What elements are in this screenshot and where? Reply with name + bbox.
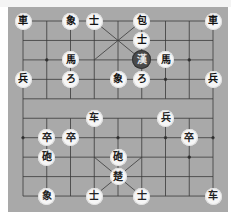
piece-r-chariot-2[interactable]: 车	[205, 188, 222, 205]
piece-r-advisor-2[interactable]: 士	[133, 188, 150, 205]
piece-r-soldier-1[interactable]: 兵	[157, 110, 174, 127]
piece-r-advisor-1[interactable]: 士	[86, 188, 103, 205]
piece-r-general[interactable]: 楚	[110, 168, 127, 185]
piece-b-soldier-1[interactable]: 兵	[15, 71, 32, 88]
piece-r-pawn-3[interactable]: 卒	[181, 129, 198, 146]
piece-b-advisor-l[interactable]: 士	[86, 13, 103, 30]
piece-r-cannon-1[interactable]: 砲	[38, 149, 55, 166]
xiangqi-board[interactable]: 車象士包車士馬漢馬兵ろ象ろ兵车兵卒卒卒砲砲楚象士士车	[8, 7, 228, 212]
piece-b-chariot-l[interactable]: 車	[15, 13, 32, 30]
piece-r-cannon-2[interactable]: 砲	[110, 149, 127, 166]
piece-b-elephant-l[interactable]: 象	[62, 13, 79, 30]
piece-b-cannon-1[interactable]: 包	[133, 13, 150, 30]
piece-b-cannon-3[interactable]: ろ	[133, 71, 150, 88]
piece-b-cannon-2[interactable]: ろ	[62, 71, 79, 88]
cropped-header	[0, 0, 231, 7]
piece-r-chariot-1[interactable]: 车	[86, 110, 103, 127]
piece-b-elephant-r[interactable]: 象	[110, 71, 127, 88]
piece-b-soldier-2[interactable]: 兵	[205, 71, 222, 88]
piece-r-elephant-1[interactable]: 象	[38, 188, 55, 205]
piece-b-chariot-r[interactable]: 車	[205, 13, 222, 30]
